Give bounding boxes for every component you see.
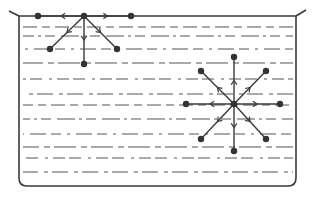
neighbor-molecule <box>263 136 269 142</box>
neighbor-molecule <box>277 101 283 107</box>
neighbor-molecule <box>128 13 134 19</box>
interior-molecule <box>231 101 237 107</box>
surface-molecule-forces <box>35 13 134 67</box>
liquid-body <box>23 27 293 172</box>
neighbor-molecule <box>263 68 269 74</box>
surface-molecule <box>81 13 87 19</box>
neighbor-molecule <box>231 148 237 154</box>
container-lip-left <box>9 11 19 16</box>
neighbor-molecule <box>198 68 204 74</box>
neighbor-molecule <box>114 46 120 52</box>
neighbor-molecule <box>47 46 53 52</box>
neighbor-molecule <box>198 136 204 142</box>
container-lip-right <box>296 10 306 16</box>
neighbor-molecule <box>81 61 87 67</box>
interior-molecule-forces <box>183 54 283 154</box>
neighbor-molecule <box>231 54 237 60</box>
surface-tension-diagram <box>0 0 316 198</box>
neighbor-molecule <box>35 13 41 19</box>
neighbor-molecule <box>183 101 189 107</box>
container-walls <box>19 16 296 186</box>
